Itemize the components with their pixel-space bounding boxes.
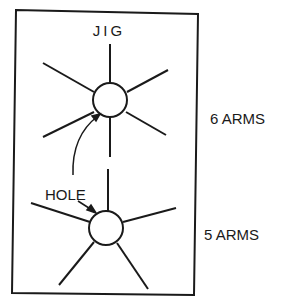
jig-diagram: JIG HOLE 6 ARMS 5 ARMS (0, 0, 290, 304)
hole-pointer-top (73, 114, 100, 175)
hole-circle-bottom (89, 211, 123, 245)
jig-title: JIG (93, 22, 125, 39)
five-arms-label: 5 ARMS (204, 226, 259, 243)
jig-frame (12, 10, 198, 295)
hole-label: HOLE (45, 186, 86, 203)
hole-pointer-bottom (78, 201, 96, 213)
hole-circle-top (93, 83, 127, 117)
six-arm-star (43, 44, 168, 157)
six-arms-label: 6 ARMS (210, 110, 265, 127)
